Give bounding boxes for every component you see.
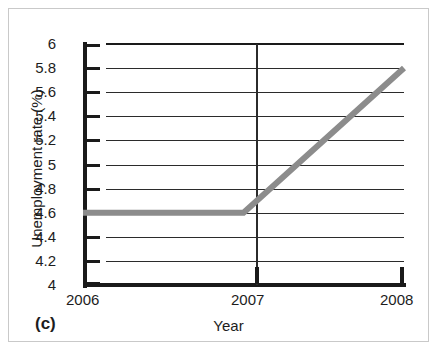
y-gridline <box>106 68 404 69</box>
y-tick-mark <box>87 236 100 239</box>
x-tick-label-2006: 2006 <box>66 292 99 307</box>
y-tick-label: 4.4 <box>0 229 56 244</box>
y-tick-label: 4.2 <box>0 253 56 268</box>
y-tick-mark <box>87 115 100 118</box>
y-tick-mark <box>87 67 100 70</box>
y-tick-label: 4.6 <box>0 205 56 220</box>
y-tick-mark <box>87 260 100 263</box>
y-tick-label: 5 <box>0 157 56 172</box>
y-tick-mark <box>87 91 100 94</box>
y-tick-mark <box>87 212 100 215</box>
y-tick-label: 5.8 <box>0 60 56 75</box>
y-tick-label: 4 <box>0 277 56 292</box>
y-tick-label: 5.4 <box>0 108 56 123</box>
y-tick-label: 6 <box>0 36 56 51</box>
x-tick-label-2008: 2008 <box>380 292 413 307</box>
x-axis-title: Year <box>9 318 439 333</box>
x-tick-label-2007: 2007 <box>231 292 264 307</box>
y-gridline <box>106 261 404 262</box>
panel-label: (c) <box>35 315 56 332</box>
y-gridline <box>106 189 404 190</box>
x-tick-mark-2007 <box>255 267 259 284</box>
y-tick-label: 5.2 <box>0 132 56 147</box>
y-gridline <box>106 237 404 238</box>
y-gridline <box>106 92 404 93</box>
y-gridline <box>106 165 404 166</box>
y-tick-label: 4.8 <box>0 181 56 196</box>
y-tick-mark <box>87 164 100 167</box>
y-tick-mark <box>87 188 100 191</box>
y-tick-mark <box>87 44 100 47</box>
x-gridline-2007 <box>256 44 258 285</box>
y-tick-mark <box>87 282 100 285</box>
y-tick-label: 5.6 <box>0 84 56 99</box>
y-tick-mark <box>87 139 100 142</box>
y-gridline <box>106 116 404 117</box>
x-axis-spine <box>83 283 406 287</box>
x-tick-mark-2008 <box>400 267 404 284</box>
y-gridline <box>106 140 404 141</box>
y-gridline <box>106 213 404 214</box>
y-gridline <box>106 43 404 45</box>
figure-frame: Unemployment rate (%) 44.24.44.64.855.25… <box>8 8 429 342</box>
